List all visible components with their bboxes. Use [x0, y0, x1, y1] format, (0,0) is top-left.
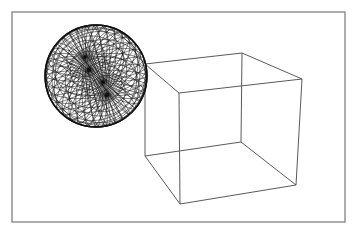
wireframe-cube [145, 53, 302, 204]
cube-edge-back-top-right-to-front-top-right [242, 53, 302, 79]
cube-edge-back-top-left-to-back-top-right [145, 53, 242, 64]
wireframe-scene [0, 0, 358, 234]
cube-edge-front-top-right-to-front-bottom-right [296, 79, 302, 185]
cube-edge-back-top-right-to-back-bottom-right [241, 53, 242, 142]
cube-edge-back-bottom-right-to-front-bottom-right [241, 142, 296, 185]
cube-edge-front-bottom-left-to-front-bottom-right [180, 185, 296, 204]
sphere-pole-point [105, 93, 109, 97]
cube-edge-back-top-left-to-front-top-left [145, 64, 179, 93]
cube-edge-front-top-left-to-front-bottom-left [179, 93, 180, 204]
wireframe-sphere [45, 25, 147, 127]
cube-edge-back-bottom-left-to-back-bottom-right [145, 142, 241, 156]
cube-edge-front-top-left-to-front-top-right [179, 79, 302, 93]
cube-edge-back-bottom-left-to-front-bottom-left [145, 156, 180, 204]
